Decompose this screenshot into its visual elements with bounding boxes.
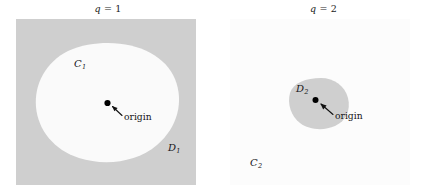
- panel-q-equals-1: q = 1 C1 D1 origin: [0, 0, 216, 196]
- origin-dot-right: [313, 97, 319, 103]
- label-D1-letter: D: [168, 142, 176, 153]
- label-C1-letter: C: [74, 58, 82, 69]
- label-C2: C2: [250, 158, 262, 168]
- panel-right-graphic: [216, 0, 431, 196]
- label-C2-letter: C: [250, 157, 258, 168]
- origin-label-left: origin: [124, 112, 152, 121]
- origin-dot-left: [104, 100, 110, 106]
- label-D1-subscript: 1: [176, 147, 180, 155]
- panel-left-graphic: [0, 0, 216, 196]
- label-C1: C1: [74, 59, 86, 69]
- label-D2: D2: [296, 84, 308, 94]
- label-C1-subscript: 1: [82, 63, 86, 71]
- label-D2-letter: D: [296, 83, 304, 94]
- label-D2-subscript: 2: [304, 88, 308, 96]
- panel-q-equals-2: q = 2 D2 C2 origin: [216, 0, 431, 196]
- figure-two-panel-regions: q = 1 C1 D1 origin q = 2: [0, 0, 431, 196]
- label-D1: D1: [168, 143, 180, 153]
- origin-label-right: origin: [335, 111, 363, 120]
- label-C2-subscript: 2: [258, 162, 262, 170]
